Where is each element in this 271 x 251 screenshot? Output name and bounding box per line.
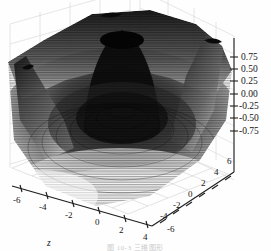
x-tick-0: -6 xyxy=(13,195,21,205)
z-tick-2: 0.25 xyxy=(241,76,258,86)
z-axis-ticklabels: 0.75 0.50 0.25 0.00 -0.25 -0.50 -0.75 xyxy=(239,52,259,136)
x-axis-ticklabels: -6 -4 -2 0 2 4 z xyxy=(13,195,148,248)
z-tick-4: -0.25 xyxy=(239,101,259,111)
x-tick-2: -2 xyxy=(65,210,73,220)
z-tick-1: 0.50 xyxy=(241,64,258,74)
z-tick-0: 0.75 xyxy=(241,52,258,62)
figure-caption: 图 10-3 三维图形 xyxy=(0,242,271,251)
y-tick-0: 6 xyxy=(227,156,232,166)
x-tick-4: 2 xyxy=(119,225,124,235)
surface-plot: 0.75 0.50 0.25 0.00 -0.25 -0.50 -0.75 -6… xyxy=(0,0,271,251)
x-tick-5: 4 xyxy=(143,232,148,242)
x-tick-3: 0 xyxy=(95,217,100,227)
y-tick-6: -6 xyxy=(167,224,175,234)
y-tick-3: 0 xyxy=(188,189,193,199)
z-tick-3: 0.00 xyxy=(241,89,258,99)
z-tick-5: -0.50 xyxy=(239,113,259,123)
surface-mesh xyxy=(0,0,271,251)
figure-container: 0.75 0.50 0.25 0.00 -0.25 -0.50 -0.75 -6… xyxy=(0,0,271,251)
z-tick-6: -0.75 xyxy=(239,126,259,136)
y-tick-5: -4 xyxy=(160,211,168,221)
y-tick-4: -2 xyxy=(173,200,181,210)
z-axis xyxy=(230,38,238,172)
x-tick-1: -4 xyxy=(39,202,47,212)
y-tick-2: 2 xyxy=(201,178,206,188)
y-tick-1: 4 xyxy=(214,167,219,177)
